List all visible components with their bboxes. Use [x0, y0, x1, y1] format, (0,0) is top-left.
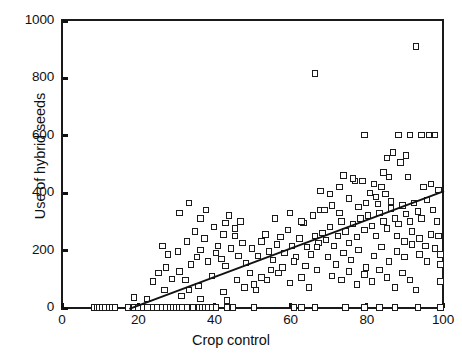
data-point-marker — [285, 227, 291, 233]
data-point-marker — [378, 184, 384, 190]
data-point-marker — [437, 278, 443, 284]
data-point-marker — [418, 132, 424, 138]
data-point-marker — [237, 218, 243, 224]
data-point-marker — [287, 280, 293, 286]
data-point-marker — [432, 132, 438, 138]
data-point-marker — [407, 277, 413, 283]
data-point-marker — [277, 234, 283, 240]
data-point-marker — [435, 233, 441, 239]
data-point-marker — [361, 271, 367, 277]
data-point-marker — [416, 235, 422, 241]
data-point-marker — [182, 277, 188, 283]
data-point-marker — [346, 195, 352, 201]
data-point-marker — [369, 278, 375, 284]
data-point-marker — [258, 274, 264, 280]
data-point-marker — [376, 304, 382, 310]
data-point-marker — [336, 210, 342, 216]
data-point-marker — [327, 191, 333, 197]
data-point-marker — [312, 70, 318, 76]
data-point-marker — [304, 244, 310, 250]
data-point-marker — [201, 235, 207, 241]
x-tick-label: 40 — [191, 312, 237, 327]
data-point-marker — [205, 258, 211, 264]
data-point-marker — [264, 277, 270, 283]
data-point-marker — [407, 218, 413, 224]
data-point-marker — [194, 254, 200, 260]
data-point-marker — [323, 237, 329, 243]
y-tick-label: 1000 — [2, 12, 54, 27]
data-point-marker — [272, 215, 278, 221]
data-point-marker — [296, 235, 302, 241]
y-axis-title: Use of hybrid seeds — [32, 26, 48, 286]
data-point-marker — [409, 241, 415, 247]
data-point-marker — [380, 218, 386, 224]
data-point-marker — [270, 257, 276, 263]
data-point-marker — [380, 169, 386, 175]
data-point-marker — [392, 304, 398, 310]
data-point-marker — [235, 253, 241, 259]
data-point-marker — [314, 267, 320, 273]
data-point-marker — [394, 233, 400, 239]
data-point-marker — [384, 225, 390, 231]
data-point-marker — [363, 200, 369, 206]
data-point-marker — [395, 132, 401, 138]
data-point-marker — [131, 294, 137, 300]
x-tick-label: 100 — [420, 312, 462, 327]
x-tick-label: 60 — [268, 312, 314, 327]
data-point-marker — [279, 264, 285, 270]
data-point-marker — [359, 178, 365, 184]
data-point-marker — [428, 181, 434, 187]
data-point-marker — [190, 304, 196, 310]
data-point-marker — [361, 132, 367, 138]
data-point-marker — [416, 251, 422, 257]
data-point-marker — [342, 304, 348, 310]
data-point-marker — [298, 304, 304, 310]
data-point-marker — [232, 233, 238, 239]
data-point-marker — [413, 43, 419, 49]
data-point-marker — [321, 207, 327, 213]
data-point-marker — [274, 241, 280, 247]
data-point-marker — [384, 155, 390, 161]
data-point-marker — [232, 225, 238, 231]
data-point-marker — [340, 250, 346, 256]
data-point-marker — [333, 261, 339, 267]
data-point-marker — [331, 243, 337, 249]
data-point-marker — [213, 304, 219, 310]
x-tick-label: 20 — [115, 312, 161, 327]
data-point-marker — [437, 261, 443, 267]
data-point-marker — [253, 287, 259, 293]
data-point-marker — [308, 251, 314, 257]
data-point-marker — [338, 218, 344, 224]
data-point-marker — [386, 174, 392, 180]
data-point-marker — [249, 245, 255, 251]
data-point-marker — [186, 200, 192, 206]
data-point-marker — [220, 289, 226, 295]
data-point-marker — [239, 240, 245, 246]
data-point-marker — [422, 243, 428, 249]
data-point-marker — [382, 191, 388, 197]
data-point-marker — [175, 248, 181, 254]
data-point-marker — [335, 233, 341, 239]
data-point-marker — [176, 210, 182, 216]
data-point-marker — [211, 224, 217, 230]
data-point-marker — [220, 231, 226, 237]
plot-data-area — [62, 21, 443, 308]
data-point-marker — [409, 228, 415, 234]
data-point-marker — [418, 215, 424, 221]
data-point-marker — [355, 247, 361, 253]
scatter-plot-figure: 02004006008001000 020406080100 Crop cont… — [0, 0, 462, 360]
data-point-marker — [329, 202, 335, 208]
x-tick-label: 0 — [39, 312, 85, 327]
data-point-marker — [369, 223, 375, 229]
data-point-marker — [371, 181, 377, 187]
data-point-marker — [298, 274, 304, 280]
data-point-marker — [354, 234, 360, 240]
data-point-marker — [403, 211, 409, 217]
data-point-marker — [224, 297, 230, 303]
data-point-marker — [373, 194, 379, 200]
data-point-marker — [327, 224, 333, 230]
data-point-marker — [394, 248, 400, 254]
data-point-marker — [197, 247, 203, 253]
data-point-marker — [378, 244, 384, 250]
data-point-marker — [258, 238, 264, 244]
